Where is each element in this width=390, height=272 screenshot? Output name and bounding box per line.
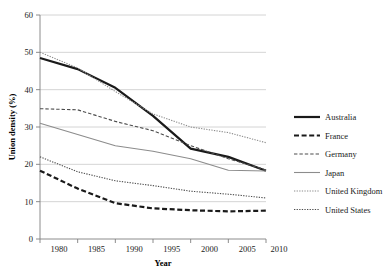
y-axis-tick-labels: 60 50 40 30 20 10 0 [25, 10, 34, 244]
legend-label-germany: Germany [325, 149, 357, 159]
y-tick-label: 40 [25, 85, 34, 95]
y-tick-label: 20 [25, 159, 34, 169]
legend-item-australia[interactable]: Australia [294, 112, 356, 122]
y-tick-label: 60 [25, 10, 34, 20]
legend-label-france: France [325, 131, 348, 141]
legend-item-germany[interactable]: Germany [294, 149, 357, 159]
y-axis-ticks [36, 15, 40, 239]
legend-label-australia: Australia [325, 112, 356, 122]
x-tick-label: 1995 [163, 244, 180, 254]
legend-label-japan: Japan [325, 168, 345, 178]
x-tick-label: 1985 [88, 244, 105, 254]
legend-label-united-states: United States [325, 205, 371, 215]
legend-item-united-states[interactable]: United States [294, 205, 371, 215]
x-axis-ticks [40, 239, 266, 243]
chart-canvas: 60 50 40 30 20 10 0 1980 1985 1990 1995 … [0, 0, 390, 272]
legend-item-united-kingdom[interactable]: United Kingdom [294, 186, 383, 196]
y-tick-label: 0 [29, 234, 33, 244]
y-tick-label: 10 [25, 197, 34, 207]
x-tick-label: 2005 [239, 244, 256, 254]
x-axis-title: Year [155, 258, 172, 268]
legend-item-japan[interactable]: Japan [294, 168, 345, 178]
x-tick-label: 1980 [51, 244, 68, 254]
legend-label-united-kingdom: United Kingdom [325, 186, 383, 196]
chart-legend: AustraliaFranceGermanyJapanUnited Kingdo… [294, 112, 383, 215]
x-tick-label: 2000 [201, 244, 218, 254]
x-tick-label: 1990 [126, 244, 143, 254]
x-axis-tick-labels: 1980 1985 1990 1995 2000 2005 2010 [51, 244, 288, 254]
y-tick-label: 30 [25, 122, 34, 132]
y-tick-label: 50 [25, 47, 34, 57]
y-axis-title: Union density (%) [7, 94, 17, 161]
legend-item-france[interactable]: France [294, 131, 348, 141]
union-density-line-chart: 60 50 40 30 20 10 0 1980 1985 1990 1995 … [0, 0, 390, 272]
x-tick-label: 2010 [271, 244, 288, 254]
